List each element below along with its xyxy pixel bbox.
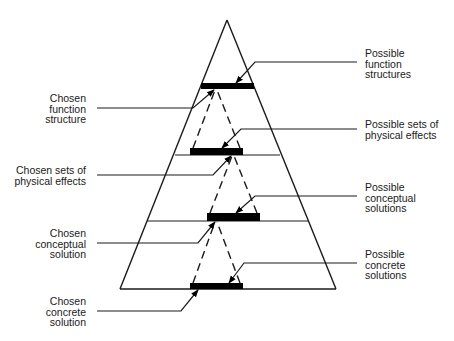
level-lines xyxy=(147,155,308,221)
leader-chosen-conceptual-solution xyxy=(97,222,215,243)
label-chosen-concrete-solution: Chosen concrete solution xyxy=(46,296,86,328)
bar-physical-effects xyxy=(190,148,243,155)
leader-possible-physical-effects xyxy=(222,129,357,148)
label-chosen-sets-of-physical-effects: Chosen sets of physical effects xyxy=(14,165,86,186)
solution-bars xyxy=(190,83,260,289)
label-possible-sets-of-physical-effects: Possible sets of physical effects xyxy=(365,119,439,140)
label-possible-concrete-solutions: Possible concrete solutions xyxy=(365,249,406,281)
leader-chosen-concrete-solution xyxy=(97,290,198,311)
label-chosen-function-structure: Chosen function structure xyxy=(45,93,86,125)
bar-function-structures xyxy=(201,83,254,89)
label-possible-function-structures: Possible function structures xyxy=(365,48,411,80)
leader-chosen-physical-effects xyxy=(97,156,231,175)
selection-dashed-lines xyxy=(193,90,257,283)
bar-conceptual-solutions xyxy=(207,213,260,221)
leader-lines-left xyxy=(97,90,231,311)
leader-possible-function-structures xyxy=(236,62,357,83)
leader-possible-conceptual-solutions xyxy=(236,196,357,213)
leader-possible-concrete-solutions xyxy=(229,263,357,283)
label-chosen-conceptual-solution: Chosen conceptual solution xyxy=(35,228,86,260)
bar-concrete-solutions xyxy=(190,283,243,289)
leader-chosen-function-structure xyxy=(97,90,214,108)
label-possible-conceptual-solutions: Possible conceptual solutions xyxy=(365,182,416,214)
